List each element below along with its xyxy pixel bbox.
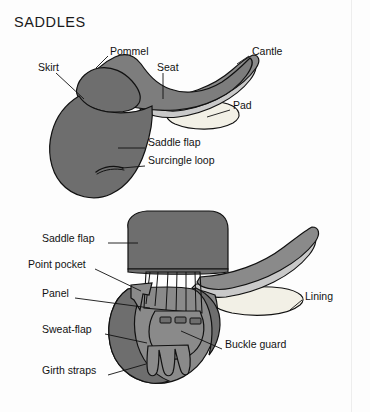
- buckle-3: [190, 318, 201, 324]
- label-girth-straps: Girth straps: [42, 365, 96, 376]
- label-point-pocket: Point pocket: [28, 259, 86, 270]
- girth-straps-shape: [147, 345, 190, 376]
- label-cantle: Cantle: [252, 46, 282, 57]
- saddle-flap-shape: [50, 96, 153, 198]
- label-sweat-flap: Sweat-flap: [42, 324, 92, 335]
- label-skirt: Skirt: [38, 62, 59, 73]
- saddle-flap-shape-2: [128, 211, 228, 269]
- label-saddle-flap-2: Saddle flap: [42, 233, 95, 244]
- diagram-underside-view: [75, 211, 319, 383]
- figure-page: SADDLES: [0, 0, 370, 412]
- label-lining: Lining: [305, 291, 333, 302]
- label-surcingle-loop: Surcingle loop: [148, 155, 215, 166]
- label-pommel: Pommel: [110, 46, 149, 57]
- label-buckle-guard: Buckle guard: [225, 339, 286, 350]
- buckle-2: [175, 317, 186, 323]
- label-saddle-flap: Saddle flap: [148, 137, 201, 148]
- diagram-side-view: [50, 55, 259, 198]
- buckle-group: [160, 317, 201, 324]
- buckle-1: [160, 317, 171, 323]
- label-pad: Pad: [233, 100, 252, 111]
- label-seat: Seat: [157, 62, 179, 73]
- label-panel: Panel: [42, 288, 69, 299]
